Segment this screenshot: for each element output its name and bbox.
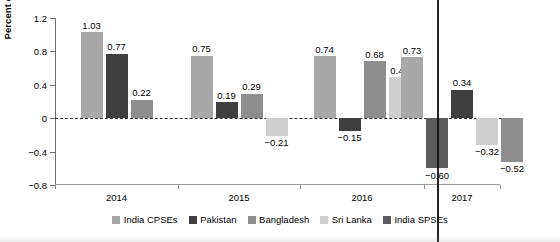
bar-value-label: 0.34 [453, 77, 472, 88]
bar-value-label: −0.21 [264, 137, 288, 148]
bar-value-label: 0.74 [315, 44, 334, 55]
x-axis-label-2014: 2014 [106, 192, 127, 203]
legend-item-bangladesh[interactable]: Bangladesh [248, 214, 310, 225]
x-axis-tick [300, 185, 301, 189]
legend-swatch-icon [112, 216, 120, 224]
legend-swatch-icon [383, 216, 391, 224]
legend-label: Sri Lanka [332, 214, 372, 225]
x-axis-tick [424, 185, 425, 189]
y-axis-tick-label: 1.2 [34, 13, 47, 24]
legend-swatch-icon [189, 216, 197, 224]
y-axis-tick [50, 85, 55, 86]
legend-swatch-icon [320, 216, 328, 224]
legend-swatch-icon [248, 216, 256, 224]
legend-label: India SPSEs [394, 214, 447, 225]
bar-chart: Percent of GDP −0.8−0.400.40.81.2 1.030.… [0, 0, 560, 242]
chart-legend: India CPSEsPakistanBangladeshSri LankaIn… [0, 214, 560, 225]
y-axis-title: Percent of GDP [2, 0, 13, 52]
bar-value-label: 0.19 [217, 90, 236, 101]
y-axis-tick [50, 18, 55, 19]
bar-bangladesh-2017 [501, 118, 523, 161]
bar-pakistan-2017 [451, 90, 473, 118]
x-axis-tick [55, 185, 56, 189]
y-axis-line [55, 18, 56, 185]
legend-label: Bangladesh [259, 214, 309, 225]
bar-bangladesh-2015 [241, 94, 263, 118]
x-axis-label-2015: 2015 [228, 192, 249, 203]
bar-value-label: −0.32 [475, 146, 499, 157]
bar-value-label: 0.29 [242, 81, 261, 92]
y-axis-tick-label: 0.8 [34, 46, 47, 57]
bar-india-cpses-2017 [401, 57, 423, 118]
legend-label: India CPSEs [124, 214, 178, 225]
x-axis-label-2016: 2016 [351, 192, 372, 203]
y-axis-tick-label: 0 [42, 113, 47, 124]
bar-value-label: 0.77 [107, 41, 126, 52]
bar-india-cpses-2016 [314, 56, 336, 118]
y-axis-tick-label: −0.8 [28, 180, 47, 191]
bar-pakistan-2014 [106, 54, 128, 118]
y-axis-tick [50, 152, 55, 153]
bar-sri-lanka-2017 [476, 118, 498, 145]
legend-item-pakistan[interactable]: Pakistan [189, 214, 237, 225]
bar-value-label: 0.68 [365, 49, 384, 60]
bar-value-label: 0.75 [192, 43, 211, 54]
bar-value-label: 1.03 [82, 20, 101, 31]
x-axis-tick [178, 185, 179, 189]
x-axis-label-2017: 2017 [451, 192, 472, 203]
legend-item-sri-lanka[interactable]: Sri Lanka [320, 214, 372, 225]
bar-value-label: 0.22 [132, 87, 151, 98]
legend-item-india-cpses[interactable]: India CPSEs [112, 214, 177, 225]
bar-sri-lanka-2015 [266, 118, 288, 136]
page-edge-shadow-artifact [0, 236, 560, 242]
x-axis-tick [500, 185, 501, 189]
page-spine-artifact [437, 0, 439, 242]
y-axis-tick-label: −0.4 [28, 146, 47, 157]
bar-value-label: −0.52 [500, 163, 524, 174]
bar-bangladesh-2016 [364, 61, 386, 118]
y-axis-tick-label: 0.4 [34, 79, 47, 90]
plot-area: −0.8−0.400.40.81.2 1.030.770.220.750.190… [55, 18, 500, 185]
x-axis-line [55, 184, 500, 185]
legend-label: Pakistan [200, 214, 236, 225]
bar-value-label: 0.73 [403, 45, 422, 56]
bar-value-label: −0.15 [337, 132, 361, 143]
bar-bangladesh-2014 [131, 100, 153, 118]
bar-pakistan-2016 [339, 118, 361, 131]
bar-india-cpses-2014 [81, 32, 103, 118]
y-axis-tick [50, 51, 55, 52]
bar-india-cpses-2015 [191, 56, 213, 119]
bar-pakistan-2015 [216, 102, 238, 118]
y-axis-title-wrap: Percent of GDP [0, 0, 22, 180]
